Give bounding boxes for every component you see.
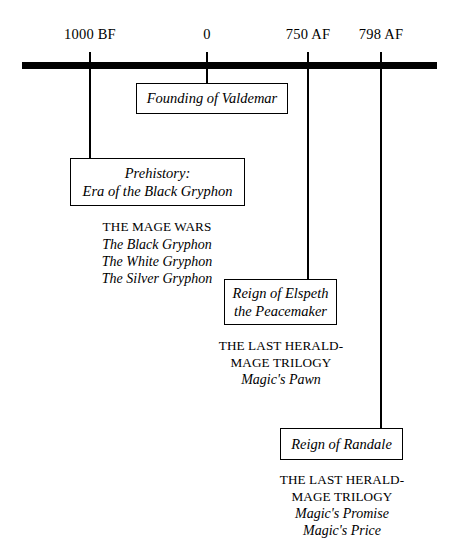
event-box-line: Era of the Black Gryphon	[83, 182, 233, 201]
event-box-line: Founding of Valdemar	[147, 89, 278, 108]
series-title-line: THE LAST HERALD-	[280, 472, 404, 489]
book-title: The White Gryphon	[102, 253, 212, 270]
axis-label-0: 0	[203, 26, 210, 42]
event-box-line: Reign of Randale	[291, 435, 392, 454]
event-box-line: Reign of Elspeth	[233, 284, 329, 303]
book-title: The Black Gryphon	[102, 236, 212, 253]
event-box-prehistory: Prehistory: Era of the Black Gryphon	[70, 158, 245, 206]
timeline-axis-bar	[22, 62, 437, 69]
book-title: Magic's Pawn	[219, 371, 343, 388]
event-box-reign-of-randale: Reign of Randale	[280, 428, 403, 460]
book-title: Magic's Price	[280, 522, 404, 539]
book-list: The Black Gryphon The White Gryphon The …	[102, 236, 212, 287]
book-title: The Silver Gryphon	[102, 270, 212, 287]
book-list: Magic's Promise Magic's Price	[280, 505, 404, 539]
book-list: Magic's Pawn	[219, 371, 343, 388]
event-box-line: Prehistory:	[125, 164, 191, 183]
connector-0-to-founding-of-valdemar	[206, 66, 208, 84]
caption-group-the-mage-wars: THE MAGE WARS The Black Gryphon The Whit…	[102, 219, 212, 287]
series-title-line: MAGE TRILOGY	[219, 355, 343, 372]
caption-group-last-herald-mage-trilogy-promise-price: THE LAST HERALD- MAGE TRILOGY Magic's Pr…	[280, 472, 404, 539]
series-title-line: MAGE TRILOGY	[280, 489, 404, 506]
axis-label-798-af: 798 AF	[359, 26, 403, 42]
axis-label-750-af: 750 AF	[286, 26, 330, 42]
event-box-line: the Peacemaker	[234, 302, 327, 321]
event-box-reign-of-elspeth: Reign of Elspeth the Peacemaker	[224, 279, 337, 325]
book-title: Magic's Promise	[280, 505, 404, 522]
series-title-line: THE MAGE WARS	[102, 219, 212, 236]
caption-group-last-herald-mage-trilogy-pawn: THE LAST HERALD- MAGE TRILOGY Magic's Pa…	[219, 338, 343, 388]
series-title-line: THE LAST HERALD-	[219, 338, 343, 355]
timeline-figure: 1000 BF 0 750 AF 798 AF Founding of Vald…	[0, 0, 458, 557]
connector-750-af-to-reign-of-elspeth	[307, 66, 309, 280]
axis-label-1000-bf: 1000 BF	[64, 26, 116, 42]
event-box-founding-of-valdemar: Founding of Valdemar	[136, 83, 288, 114]
connector-798-af-to-reign-of-randale	[380, 66, 382, 429]
connector-1000-bf-to-prehistory	[89, 66, 91, 159]
